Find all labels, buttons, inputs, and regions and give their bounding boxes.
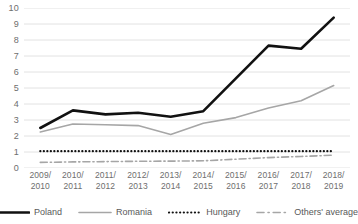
x-tick-label: 2017/2018 bbox=[285, 170, 318, 200]
x-tick-line-2: 2014 bbox=[154, 181, 187, 192]
legend-item-others-average[interactable]: Others' average bbox=[256, 208, 358, 217]
legend-item-poland[interactable]: Poland bbox=[0, 208, 62, 217]
x-tick-line-1: 2016/ bbox=[252, 170, 285, 181]
line-solid-thick-icon bbox=[0, 208, 30, 217]
x-tick-line-2: 2012 bbox=[89, 181, 122, 192]
x-tick-line-1: 2014/ bbox=[187, 170, 220, 181]
x-tick-label: 2016/2017 bbox=[252, 170, 285, 200]
legend-label: Hungary bbox=[206, 208, 240, 217]
x-tick-line-1: 2012/ bbox=[122, 170, 155, 181]
x-tick-label: 2011/2012 bbox=[89, 170, 122, 200]
x-tick-line-1: 2009/ bbox=[24, 170, 57, 181]
x-tick-label: 2015/2016 bbox=[220, 170, 253, 200]
y-tick-label: 6 bbox=[14, 68, 19, 77]
x-tick-line-1: 2013/ bbox=[154, 170, 187, 181]
x-tick-line-1: 2011/ bbox=[89, 170, 122, 181]
x-tick-line-2: 2013 bbox=[122, 181, 155, 192]
y-tick-label: 0 bbox=[14, 164, 19, 173]
x-tick-line-1: 2018/ bbox=[317, 170, 350, 181]
y-tick-label: 7 bbox=[14, 52, 19, 61]
y-tick-label: 8 bbox=[14, 36, 19, 45]
y-tick-label: 3 bbox=[14, 116, 19, 125]
series-line-romania bbox=[40, 86, 333, 135]
y-tick-label: 4 bbox=[14, 100, 19, 109]
x-tick-label: 2009/2010 bbox=[24, 170, 57, 200]
gridlines bbox=[24, 8, 350, 168]
x-tick-line-2: 2017 bbox=[252, 181, 285, 192]
x-tick-label: 2012/2013 bbox=[122, 170, 155, 200]
legend-label: Poland bbox=[34, 208, 62, 217]
x-tick-line-2: 2016 bbox=[220, 181, 253, 192]
x-tick-line-1: 2010/ bbox=[57, 170, 90, 181]
line-dotted-icon bbox=[168, 208, 202, 217]
series-layer bbox=[40, 18, 333, 163]
x-tick-label: 2018/2019 bbox=[317, 170, 350, 200]
legend-label: Others' average bbox=[294, 208, 358, 217]
x-tick-line-1: 2017/ bbox=[285, 170, 318, 181]
series-line-poland bbox=[40, 18, 333, 128]
x-axis: 2009/20102010/20112011/20122012/20132013… bbox=[24, 170, 350, 200]
x-tick-label: 2010/2011 bbox=[57, 170, 90, 200]
x-tick-line-2: 2018 bbox=[285, 181, 318, 192]
x-tick-label: 2013/2014 bbox=[154, 170, 187, 200]
x-tick-line-1: 2015/ bbox=[220, 170, 253, 181]
legend-item-romania[interactable]: Romania bbox=[78, 208, 152, 217]
plot-svg bbox=[24, 8, 350, 168]
y-tick-label: 2 bbox=[14, 132, 19, 141]
x-tick-line-2: 2011 bbox=[57, 181, 90, 192]
legend-item-hungary[interactable]: Hungary bbox=[168, 208, 240, 217]
chart-legend: PolandRomaniaHungaryOthers' average bbox=[0, 203, 354, 221]
plot-area bbox=[24, 8, 350, 168]
x-tick-line-2: 2015 bbox=[187, 181, 220, 192]
y-tick-label: 5 bbox=[14, 84, 19, 93]
line-dashdot-icon bbox=[256, 208, 290, 217]
y-tick-label: 10 bbox=[9, 4, 19, 13]
y-tick-label: 1 bbox=[14, 148, 19, 157]
y-tick-label: 9 bbox=[14, 20, 19, 29]
x-tick-label: 2014/2015 bbox=[187, 170, 220, 200]
series-line-others-average bbox=[40, 155, 333, 162]
x-tick-line-2: 2010 bbox=[24, 181, 57, 192]
x-tick-line-2: 2019 bbox=[317, 181, 350, 192]
line-solid-gray-icon bbox=[78, 208, 112, 217]
legend-label: Romania bbox=[116, 208, 152, 217]
y-axis: 109876543210 bbox=[0, 8, 22, 168]
